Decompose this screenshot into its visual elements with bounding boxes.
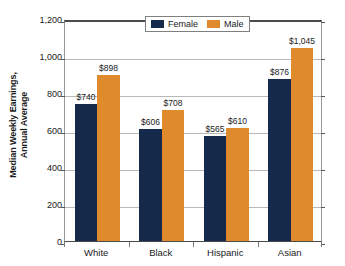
legend: FemaleMale — [145, 16, 250, 32]
y-axis-tick-right — [321, 96, 325, 97]
y-axis-tick-label: 200 — [47, 200, 62, 210]
bars-layer: $740$898$606$708$565$610$876$1,045 — [65, 22, 321, 241]
bar-female-black[interactable]: $606 — [139, 129, 162, 241]
bar-chart: Median Weekly Earnings, Annual Average 0… — [0, 0, 345, 266]
plot-area: $740$898$606$708$565$610$876$1,045 — [64, 20, 322, 242]
bar-male-white[interactable]: $898 — [97, 75, 120, 241]
legend-label: Male — [224, 19, 244, 29]
bar-group: $876$1,045 — [268, 22, 313, 241]
x-axis-tick-label-hispanic: Hispanic — [207, 247, 243, 258]
y-axis-tick-label: 1,000 — [39, 52, 62, 62]
y-axis-tick-right — [321, 133, 325, 134]
legend-label: Female — [168, 19, 198, 29]
bar-value-label: $565 — [205, 124, 224, 134]
y-axis-tick-right — [321, 59, 325, 60]
x-axis-tick-label-white: White — [84, 247, 108, 258]
bar-value-label: $876 — [270, 67, 289, 77]
y-axis-tick-label: 1,200 — [39, 15, 62, 25]
bar-male-hispanic[interactable]: $610 — [226, 128, 249, 241]
y-axis-title-line2: Annual Average — [19, 92, 29, 158]
bar-female-hispanic[interactable]: $565 — [204, 136, 227, 241]
legend-entry-male[interactable]: Male — [207, 19, 244, 29]
bar-value-label: $610 — [228, 116, 247, 126]
x-axis-tick-labels: WhiteBlackHispanicAsian — [64, 247, 322, 264]
bar-male-asian[interactable]: $1,045 — [291, 48, 314, 241]
y-axis-tick-right — [321, 170, 325, 171]
x-axis-tick-label-asian: Asian — [278, 247, 302, 258]
y-axis-tick-right — [321, 22, 325, 23]
bar-male-black[interactable]: $708 — [162, 110, 185, 241]
legend-entry-female[interactable]: Female — [151, 19, 198, 29]
y-axis-tick-label: 600 — [47, 126, 62, 136]
bar-group: $565$610 — [204, 22, 249, 241]
bar-value-label: $898 — [99, 63, 118, 73]
male-swatch — [207, 20, 220, 28]
bar-value-label: $708 — [164, 98, 183, 108]
bar-value-label: $606 — [141, 117, 160, 127]
x-axis-tick-label-black: Black — [149, 247, 172, 258]
y-axis-tick-label: 400 — [47, 163, 62, 173]
y-axis-tick-labels: 02004006008001,0001,200 — [30, 0, 62, 250]
female-swatch — [151, 20, 164, 28]
bar-value-label: $1,045 — [289, 36, 315, 46]
y-axis-tick-label: 0 — [57, 237, 62, 247]
bar-group: $606$708 — [139, 22, 184, 241]
bar-value-label: $740 — [76, 92, 95, 102]
bar-female-asian[interactable]: $876 — [268, 79, 291, 241]
y-axis-tick-label: 800 — [47, 89, 62, 99]
y-axis-tick-right — [321, 207, 325, 208]
bar-female-white[interactable]: $740 — [75, 104, 98, 241]
y-axis-title-line1: Median Weekly Earnings, — [8, 72, 18, 178]
bar-group: $740$898 — [75, 22, 120, 241]
